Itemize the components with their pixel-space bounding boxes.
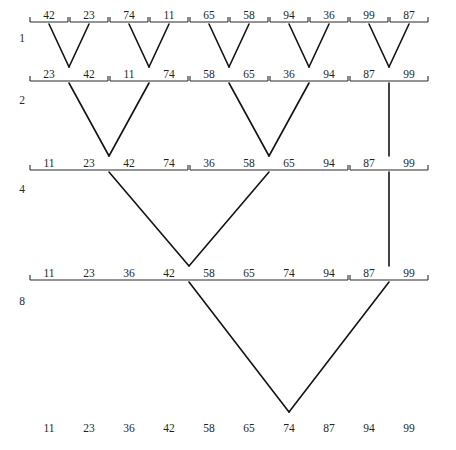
merge-1-to-2-e-stroke <box>369 24 389 67</box>
row-run-size-2-bracket-0 <box>30 76 108 81</box>
group-bracket-layer <box>30 17 428 280</box>
merge-8-to-final-stroke <box>289 282 389 412</box>
merge-sort-diagram: 4223741165589436998723421174586536948799… <box>0 0 456 450</box>
row-run-size-8-value: 94 <box>323 267 335 279</box>
merge-1-to-2-e-stroke <box>389 24 409 67</box>
merge-2-to-4-b-stroke <box>269 83 309 156</box>
row-run-size-4-value: 11 <box>43 157 54 169</box>
row-run-size-1-value: 74 <box>123 9 135 21</box>
merge-2-to-4-b <box>229 83 309 156</box>
row-run-size-1-value: 11 <box>163 9 174 21</box>
row-run-size-4-value: 99 <box>403 157 415 169</box>
row-run-size-4-value: 58 <box>243 157 255 169</box>
row-final-sorted-value: 94 <box>363 422 375 434</box>
merge-1-to-2-d-stroke <box>289 24 309 67</box>
merge-4-to-8-a <box>109 172 269 266</box>
row-run-size-2-value: 23 <box>43 68 55 80</box>
diagram-canvas: 4223741165589436998723421174586536948799… <box>0 0 456 450</box>
row-run-size-4-value: 42 <box>123 157 135 169</box>
row-run-size-1-value: 65 <box>203 9 215 21</box>
row-run-size-1-value: 23 <box>83 9 95 21</box>
row-run-size-2-bracket-4 <box>350 76 428 81</box>
row-run-size-4-value: 65 <box>283 157 295 169</box>
merge-1-to-2-b <box>129 24 169 67</box>
row-run-size-8-value: 99 <box>403 267 415 279</box>
merge-1-to-2-a-stroke <box>49 24 69 67</box>
level-label-2: 2 <box>19 94 25 106</box>
level-label-4: 4 <box>19 183 25 195</box>
row-run-size-4-value: 36 <box>203 157 215 169</box>
merge-1-to-2-e <box>369 24 409 67</box>
row-run-size-8-bracket-1 <box>350 275 428 280</box>
row-run-size-2-value: 74 <box>163 68 175 80</box>
row-run-size-2-value: 11 <box>123 68 134 80</box>
row-run-size-2-value: 58 <box>203 68 215 80</box>
row-run-size-4-value: 94 <box>323 157 335 169</box>
row-run-size-2-value: 65 <box>243 68 255 80</box>
row-run-size-1-value: 42 <box>43 9 55 21</box>
merge-2-to-4-a-stroke <box>69 83 109 156</box>
row-run-size-2-bracket-1 <box>110 76 188 81</box>
row-run-size-8-value: 74 <box>283 267 295 279</box>
merge-1-to-2-d-stroke <box>309 24 329 67</box>
row-final-sorted-value: 11 <box>43 422 54 434</box>
row-run-size-8-value: 11 <box>43 267 54 279</box>
row-run-size-8-value: 36 <box>123 267 135 279</box>
row-run-size-8-value: 87 <box>363 267 375 279</box>
merge-1-to-2-b-stroke <box>129 24 149 67</box>
row-final-sorted-value: 23 <box>83 422 95 434</box>
level-label-8: 8 <box>19 295 25 307</box>
merge-1-to-2-c <box>209 24 249 67</box>
value-label-layer: 4223741165589436998723421174586536948799… <box>43 9 415 434</box>
row-run-size-2-value: 99 <box>403 68 415 80</box>
merge-8-to-final <box>189 282 389 412</box>
merge-1-to-2-b-stroke <box>149 24 169 67</box>
row-final-sorted-value: 42 <box>163 422 175 434</box>
level-label-layer: 1248 <box>19 32 25 307</box>
row-run-size-4-value: 23 <box>83 157 95 169</box>
row-run-size-2-bracket-3 <box>270 76 348 81</box>
row-run-size-8-value: 42 <box>163 267 175 279</box>
merge-1-to-2-c-stroke <box>229 24 249 67</box>
merge-link-layer <box>49 24 409 412</box>
row-final-sorted-value: 58 <box>203 422 215 434</box>
merge-1-to-2-d <box>289 24 329 67</box>
row-run-size-1-value: 87 <box>403 9 415 21</box>
row-run-size-1-value: 36 <box>323 9 335 21</box>
merge-1-to-2-a <box>49 24 89 67</box>
merge-2-to-4-b-stroke <box>229 83 269 156</box>
row-final-sorted-value: 87 <box>323 422 335 434</box>
row-run-size-8-bracket-0 <box>30 275 348 280</box>
row-run-size-8-value: 65 <box>243 267 255 279</box>
row-final-sorted-value: 36 <box>123 422 135 434</box>
merge-2-to-4-a <box>69 83 149 156</box>
merge-4-to-8-a-stroke <box>109 172 189 266</box>
row-run-size-4-value: 87 <box>363 157 375 169</box>
row-run-size-1-value: 99 <box>363 9 375 21</box>
row-run-size-8-value: 58 <box>203 267 215 279</box>
row-run-size-2-value: 87 <box>363 68 375 80</box>
row-run-size-1-value: 58 <box>243 9 255 21</box>
row-run-size-1-value: 94 <box>283 9 295 21</box>
merge-8-to-final-stroke <box>189 282 289 412</box>
row-run-size-2-value: 94 <box>323 68 335 80</box>
merge-4-to-8-a-stroke <box>189 172 269 266</box>
row-final-sorted-value: 65 <box>243 422 255 434</box>
level-label-1: 1 <box>19 32 25 44</box>
merge-1-to-2-c-stroke <box>209 24 229 67</box>
row-run-size-2-value: 36 <box>283 68 295 80</box>
row-run-size-4-value: 74 <box>163 157 175 169</box>
row-run-size-2-bracket-2 <box>190 76 268 81</box>
row-final-sorted-value: 74 <box>283 422 295 434</box>
row-run-size-4-bracket-2 <box>350 165 428 170</box>
row-run-size-2-value: 42 <box>83 68 95 80</box>
row-run-size-8-value: 23 <box>83 267 95 279</box>
merge-2-to-4-a-stroke <box>109 83 149 156</box>
row-final-sorted-value: 99 <box>403 422 415 434</box>
merge-1-to-2-a-stroke <box>69 24 89 67</box>
